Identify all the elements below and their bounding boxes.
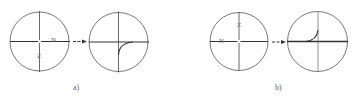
panel-a-before-dial	[10, 11, 70, 72]
n-label: N	[51, 36, 56, 44]
diagram-canvas	[0, 0, 357, 101]
panel-label-b: b)	[275, 83, 282, 92]
arrow-icon	[272, 40, 286, 44]
z-label: Z	[37, 52, 41, 60]
panel-label-a: a)	[73, 83, 79, 92]
n-label: N	[219, 37, 224, 45]
trace-curve	[119, 42, 134, 55]
arrow-icon	[73, 40, 87, 44]
z-label: Z	[237, 21, 241, 29]
trace-curve	[306, 30, 318, 42]
panel-b-after-dial	[287, 12, 348, 73]
panel-a-after-dial	[89, 12, 149, 73]
